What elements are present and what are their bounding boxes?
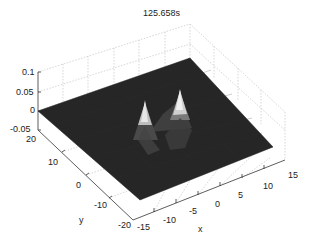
x-tick-label: 0 xyxy=(215,199,220,209)
y-axis-label: y xyxy=(79,215,84,225)
z-tick-label: 0.05 xyxy=(16,87,34,97)
x-tick-label: 10 xyxy=(263,181,273,191)
y-tick-label: 10 xyxy=(48,157,58,167)
x-tick-label: 5 xyxy=(238,190,243,200)
z-tick-label: -0.05 xyxy=(10,124,31,134)
y-tick-label: -20 xyxy=(118,220,131,230)
x-tick-label: -5 xyxy=(189,206,197,216)
x-tick-label: 15 xyxy=(288,170,298,180)
surface-plot xyxy=(0,0,313,245)
y-tick-label: 0 xyxy=(76,180,81,190)
z-tick-label: 0 xyxy=(30,105,35,115)
y-tick-label: 20 xyxy=(26,134,36,144)
y-tick-label: -10 xyxy=(94,200,107,210)
x-tick-label: -10 xyxy=(163,215,176,225)
x-tick-label: -15 xyxy=(137,222,150,232)
z-tick-label: 0.1 xyxy=(22,67,35,77)
x-axis-label: x xyxy=(198,224,203,234)
